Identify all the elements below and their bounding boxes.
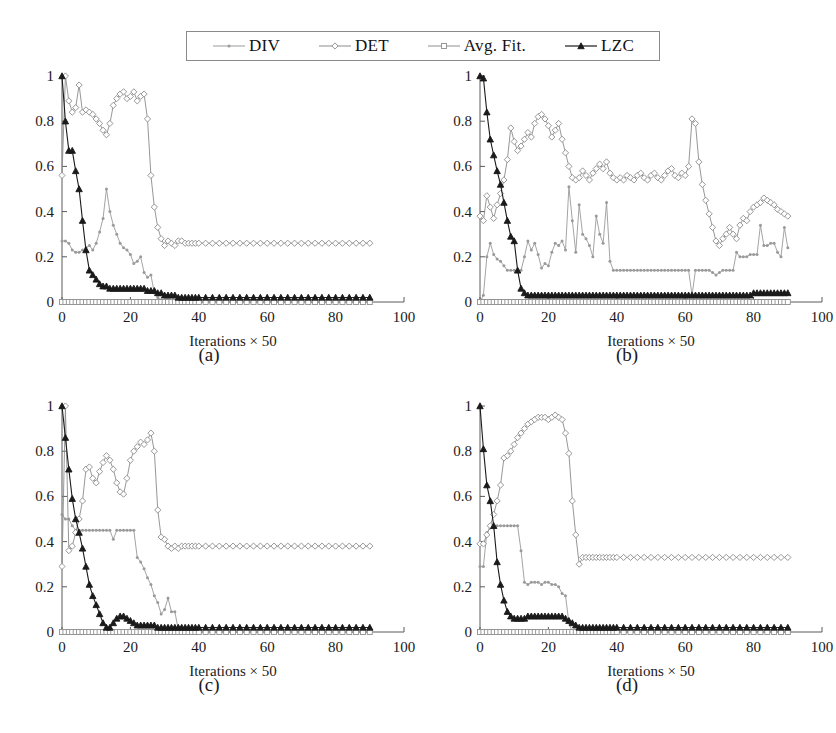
data-point-diamond — [785, 554, 791, 560]
data-point-diamond — [549, 134, 555, 140]
data-point-dot — [725, 269, 728, 272]
data-point-triangle — [480, 446, 486, 452]
data-point-diamond — [151, 448, 157, 454]
data-point-diamond — [291, 240, 297, 246]
data-point-dot — [98, 529, 101, 532]
data-point-diamond — [257, 543, 263, 549]
data-point-diamond — [209, 543, 215, 549]
data-point-dot — [105, 529, 108, 532]
data-point-dot — [561, 592, 564, 595]
data-point-diamond — [203, 543, 209, 549]
data-point-diamond — [319, 543, 325, 549]
series-avgfit — [478, 300, 791, 305]
data-point-dot — [170, 610, 173, 613]
data-point-dot — [557, 244, 560, 247]
data-point-dot — [735, 251, 738, 254]
data-point-dot — [550, 583, 553, 586]
data-point-dot — [701, 269, 704, 272]
data-point-triangle — [490, 152, 496, 158]
x-tick-label: 80 — [328, 639, 343, 655]
data-point-dot — [721, 269, 724, 272]
legend-item-avgfit[interactable]: Avg. Fit. — [427, 36, 526, 56]
data-point-dot — [173, 610, 176, 613]
data-point-diamond — [573, 532, 579, 538]
legend-item-det[interactable]: DET — [318, 36, 389, 56]
data-point-dot — [125, 249, 128, 252]
data-point-triangle — [497, 581, 503, 587]
data-point-diamond — [487, 204, 493, 210]
data-point-dot — [561, 239, 564, 242]
x-tick-label: 80 — [746, 309, 761, 325]
data-point-diamond — [312, 543, 318, 549]
legend-item-div[interactable]: DIV — [212, 36, 280, 56]
series-det — [59, 73, 373, 249]
data-point-diamond — [250, 543, 256, 549]
data-point-diamond — [562, 430, 568, 436]
data-point-diamond — [298, 543, 304, 549]
data-point-dot — [547, 264, 550, 267]
data-point-dot — [578, 203, 581, 206]
diamond-icon — [318, 39, 352, 53]
data-point-diamond — [353, 543, 359, 549]
data-point-diamond — [326, 543, 332, 549]
data-point-dot — [496, 258, 499, 261]
data-point-diamond — [730, 554, 736, 560]
data-point-dot — [759, 224, 762, 227]
data-point-dot — [526, 239, 529, 242]
figure-container: DIVDETAvg. Fit.LZC 00.20.40.60.810204060… — [0, 0, 836, 733]
x-tick-label: 0 — [58, 309, 66, 325]
data-point-diamond — [576, 561, 582, 567]
data-point-dot — [64, 518, 67, 521]
axes — [62, 404, 404, 632]
series-line — [62, 406, 370, 627]
data-point-dot — [540, 267, 543, 270]
data-point-dot — [738, 255, 741, 258]
data-point-dot — [622, 269, 625, 272]
data-point-dot — [581, 233, 584, 236]
data-point-dot — [129, 253, 132, 256]
data-point-diamond — [264, 543, 270, 549]
data-point-diamond — [353, 240, 359, 246]
data-point-diamond — [709, 554, 715, 560]
data-point-dot — [756, 253, 759, 256]
x-tick-label: 60 — [260, 309, 275, 325]
series-det — [477, 412, 791, 567]
data-point-dot — [786, 246, 789, 249]
data-point-dot — [773, 242, 776, 245]
series-line — [480, 406, 788, 627]
data-point-diamond — [127, 457, 133, 463]
dot-icon — [227, 45, 230, 48]
x-tick-label: 100 — [393, 639, 416, 655]
data-point-dot — [718, 271, 721, 274]
data-point-triangle — [484, 109, 490, 115]
data-point-triangle — [494, 559, 500, 565]
data-point-diamond — [744, 554, 750, 560]
data-point-diamond — [298, 240, 304, 246]
y-tick-label: 0.6 — [35, 488, 54, 504]
data-point-diamond — [360, 240, 366, 246]
data-point-dot — [752, 253, 755, 256]
data-point-diamond — [668, 554, 674, 560]
y-tick-label: 0 — [465, 624, 473, 640]
data-point-diamond — [627, 554, 633, 560]
legend-item-lzc[interactable]: LZC — [564, 36, 634, 56]
data-point-dot — [61, 239, 64, 242]
data-point-diamond — [250, 240, 256, 246]
data-point-diamond — [97, 468, 103, 474]
data-point-dot — [646, 269, 649, 272]
data-point-dot — [102, 529, 105, 532]
data-point-dot — [574, 251, 577, 254]
data-point-dot — [523, 255, 526, 258]
x-tick-label: 20 — [123, 639, 138, 655]
series-lzc — [477, 73, 791, 298]
axes — [480, 74, 822, 302]
data-point-diamond — [689, 554, 695, 560]
data-point-dot — [132, 262, 135, 265]
data-point-diamond — [521, 136, 527, 142]
data-point-diamond — [285, 240, 291, 246]
data-point-dot — [540, 583, 543, 586]
data-point-diamond — [771, 554, 777, 560]
data-point-dot — [711, 271, 714, 274]
data-point-diamond — [278, 240, 284, 246]
data-point-diamond — [271, 543, 277, 549]
